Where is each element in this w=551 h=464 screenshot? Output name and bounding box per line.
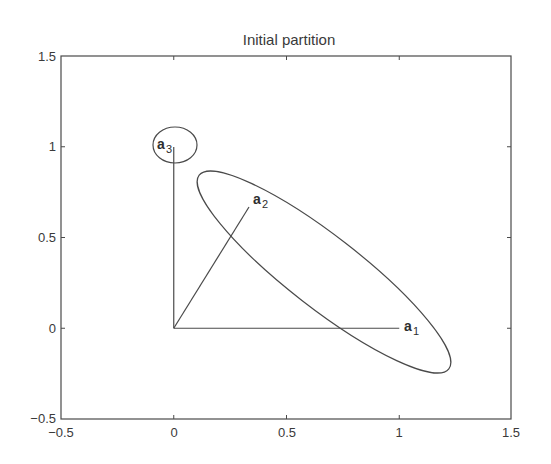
chart-title: Initial partition <box>243 31 336 48</box>
y-ticks <box>61 147 511 329</box>
x-ticks <box>174 56 400 419</box>
x-tick-label: 1.5 <box>502 425 520 440</box>
cluster-ellipse-large <box>177 147 471 398</box>
x-tick-label: −0.5 <box>48 425 74 440</box>
label-a1: a 1 <box>404 318 419 337</box>
y-tick-labels: −0.5 0 0.5 1 1.5 <box>30 49 56 426</box>
label-a3-letter: a <box>157 136 165 152</box>
axes-frame <box>61 56 511 419</box>
vectors <box>174 147 400 328</box>
x-tick-labels: −0.5 0 0.5 1 1.5 <box>48 425 520 440</box>
label-a2-letter: a <box>253 191 261 207</box>
y-tick-label: 0 <box>49 321 56 336</box>
x-tick-label: 0.5 <box>278 425 296 440</box>
y-tick-label: 0.5 <box>38 230 56 245</box>
label-a3: a 3 <box>157 136 172 155</box>
label-a1-letter: a <box>404 318 412 334</box>
label-a2-sub: 2 <box>262 198 268 210</box>
figure: Initial partition −0.5 0 0.5 1 1.5 −0.5 … <box>0 0 551 464</box>
vector-a2 <box>174 207 249 328</box>
x-tick-label: 0 <box>170 425 177 440</box>
label-a2: a 2 <box>253 191 268 210</box>
x-tick-label: 1 <box>395 425 402 440</box>
y-tick-label: 1 <box>49 139 56 154</box>
y-tick-label: −0.5 <box>30 411 56 426</box>
y-tick-label: 1.5 <box>38 49 56 64</box>
label-a3-sub: 3 <box>166 143 172 155</box>
label-a1-sub: 1 <box>413 325 419 337</box>
